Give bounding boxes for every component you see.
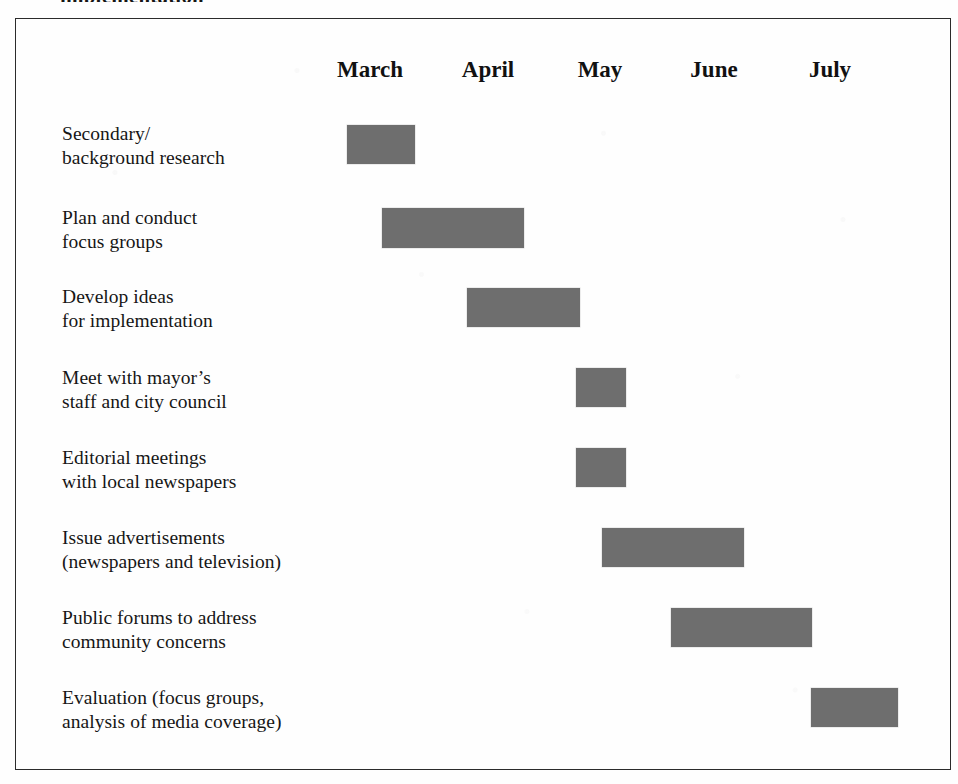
task-bar (576, 368, 626, 407)
task-label: Secondary/ background research (62, 122, 225, 170)
task-label: Plan and conduct focus groups (62, 206, 197, 254)
task-bar (602, 528, 744, 567)
task-label: Develop ideas for implementation (62, 285, 213, 333)
month-label-july: July (809, 58, 851, 81)
task-bar (467, 288, 580, 327)
task-label: Issue advertisements (newspapers and tel… (62, 526, 281, 574)
task-bar (382, 208, 524, 248)
month-label-june: June (690, 58, 737, 81)
task-label: Public forums to address community conce… (62, 606, 257, 654)
task-bar (671, 608, 812, 647)
task-bar (811, 688, 898, 727)
month-label-may: May (578, 58, 623, 81)
task-label: Evaluation (focus groups, analysis of me… (62, 686, 282, 734)
task-label: Meet with mayor’s staff and city council (62, 366, 227, 414)
task-bar (347, 125, 415, 164)
clipped-heading-fragment: implementation (60, 0, 480, 2)
month-label-march: March (337, 58, 403, 81)
month-label-april: April (462, 58, 514, 81)
task-bar (576, 448, 626, 487)
task-label: Editorial meetings with local newspapers (62, 446, 236, 494)
gantt-chart-page: implementation MarchAprilMayJuneJuly Sec… (0, 0, 958, 784)
gantt-chart: MarchAprilMayJuneJuly Secondary/ backgro… (0, 0, 958, 784)
